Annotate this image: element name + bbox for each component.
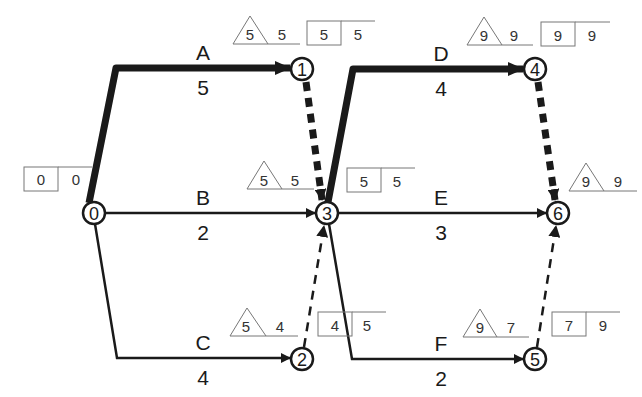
activity-d-arrow — [328, 69, 523, 202]
node-2-tri-side: 4 — [276, 318, 284, 335]
node-5-tri-value: 9 — [476, 319, 484, 336]
node-5-label: 5 — [530, 350, 540, 370]
node-1-box-a: 5 — [320, 26, 328, 43]
node-4: 4 — [524, 58, 546, 80]
node-3: 3 — [316, 202, 338, 224]
node-6-tri-side: 9 — [614, 173, 622, 190]
node-0-time-box: 0 0 — [24, 167, 92, 191]
node-4-tri-side: 9 — [510, 27, 518, 44]
activity-f-duration: 2 — [435, 367, 447, 390]
node-2: 2 — [291, 348, 313, 370]
activity-e-duration: 3 — [435, 221, 447, 244]
node-2-tri-value: 5 — [242, 318, 250, 335]
node-6: 6 — [547, 202, 569, 224]
dummy-5-6-arrow — [537, 226, 556, 347]
node-1-time-triangle: 5 5 — [233, 16, 300, 44]
node-4-time-triangle: 9 9 — [467, 17, 533, 45]
node-1-box-b: 5 — [354, 26, 362, 43]
activity-c-arrow — [95, 224, 290, 358]
node-3-tri-value: 5 — [260, 172, 268, 189]
node-3-time-box: 5 5 — [347, 168, 415, 192]
dummy-4-6-arrow — [538, 82, 555, 200]
node-6-label: 6 — [553, 204, 563, 224]
node-5-time-triangle: 9 7 — [463, 309, 529, 337]
node-5: 5 — [524, 348, 546, 370]
dummy-1-3-arrow — [306, 82, 322, 200]
node-3-tri-side: 5 — [291, 172, 299, 189]
node-3-box-b: 5 — [393, 173, 401, 190]
activity-f-name: F — [435, 332, 448, 355]
activity-a-duration: 5 — [197, 76, 209, 99]
node-3-time-triangle: 5 5 — [247, 161, 314, 189]
node-5-time-box: 7 9 — [552, 312, 620, 336]
node-1-label: 1 — [297, 60, 307, 80]
activity-c-duration: 4 — [197, 366, 209, 389]
node-1-tri-side: 5 — [278, 26, 286, 43]
node-6-tri-value: 9 — [582, 173, 590, 190]
node-3-box-a: 5 — [360, 173, 368, 190]
activity-e-name: E — [434, 186, 448, 209]
node-0-label: 0 — [89, 204, 99, 224]
node-1-time-box: 5 5 — [307, 21, 375, 45]
activity-b-duration: 2 — [197, 221, 209, 244]
activity-c-name: C — [195, 331, 210, 354]
node-2-box-a: 4 — [331, 317, 339, 334]
node-0: 0 — [83, 202, 105, 224]
node-6-time-triangle: 9 9 — [569, 163, 637, 191]
network-diagram: A 5 B 2 C 4 D 4 E 3 F 2 0 1 2 3 4 5 6 0 … — [0, 0, 642, 397]
activity-a-name: A — [196, 41, 210, 64]
node-0-box-a: 0 — [37, 171, 45, 188]
node-4-label: 4 — [530, 60, 540, 80]
node-1-tri-value: 5 — [246, 26, 254, 43]
node-4-box-a: 9 — [554, 27, 562, 44]
activity-f-arrow — [329, 224, 523, 359]
node-2-time-triangle: 5 4 — [230, 308, 298, 336]
activity-b-name: B — [196, 186, 210, 209]
node-4-time-box: 9 9 — [541, 22, 610, 46]
node-3-label: 3 — [322, 204, 332, 224]
node-2-time-box: 4 5 — [318, 312, 386, 336]
activity-d-name: D — [433, 42, 448, 65]
node-2-box-b: 5 — [363, 317, 371, 334]
node-5-tri-side: 7 — [507, 319, 515, 336]
node-2-label: 2 — [297, 350, 307, 370]
node-0-box-b: 0 — [72, 171, 80, 188]
node-4-tri-value: 9 — [480, 27, 488, 44]
activity-d-duration: 4 — [435, 77, 447, 100]
node-5-box-a: 7 — [565, 317, 573, 334]
node-5-box-b: 9 — [599, 317, 607, 334]
node-4-box-b: 9 — [588, 27, 596, 44]
node-1: 1 — [291, 58, 313, 80]
dummy-2-3-arrow — [304, 226, 324, 347]
